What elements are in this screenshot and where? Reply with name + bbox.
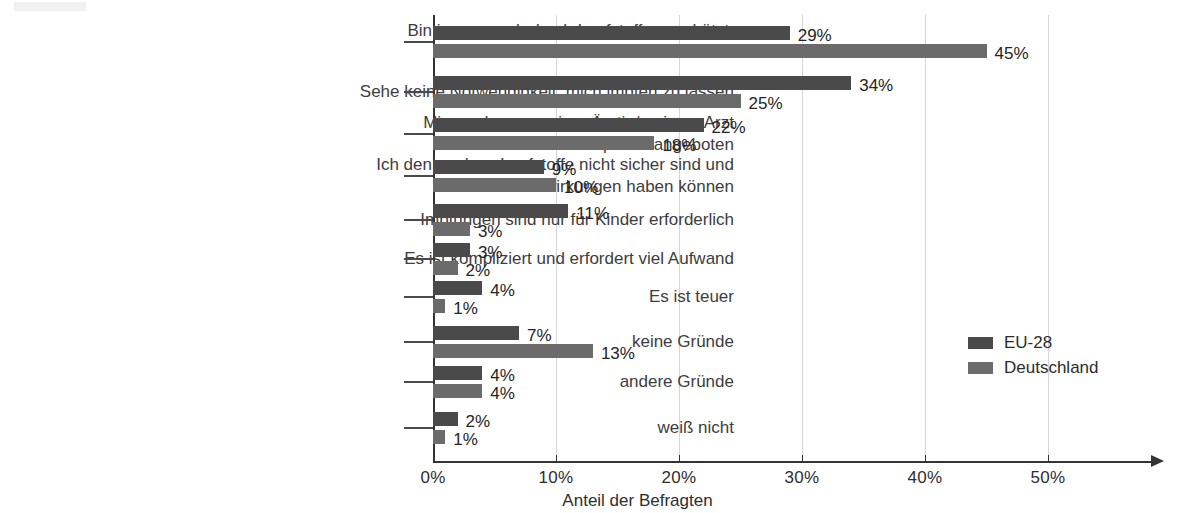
x-axis-tick-label: 10% <box>539 468 574 488</box>
legend-item[interactable]: Deutschland <box>968 355 1099 380</box>
x-axis-title: Anteil der Befragten <box>0 491 1195 511</box>
bar-value-label: 2% <box>466 262 491 279</box>
bar[interactable] <box>433 160 544 174</box>
bar-value-label: 22% <box>712 119 746 136</box>
x-axis-tick-label: 30% <box>785 468 820 488</box>
legend-item[interactable]: EU-28 <box>968 330 1099 355</box>
legend-label-deutschland: Deutschland <box>1004 358 1099 378</box>
bar[interactable] <box>433 222 470 236</box>
bar[interactable] <box>433 261 458 275</box>
bar-value-label: 11% <box>576 205 609 222</box>
category-label: keine Gründe <box>632 331 734 353</box>
bar[interactable] <box>433 430 445 444</box>
category-connector-line <box>404 258 433 260</box>
scan-artifact <box>14 2 86 11</box>
bar-value-label: 3% <box>478 244 503 261</box>
bar-value-label: 29% <box>798 27 832 44</box>
legend-label-eu28: EU-28 <box>1004 333 1052 353</box>
bar-value-label: 1% <box>453 300 478 317</box>
bar[interactable] <box>433 243 470 257</box>
category-connector-line <box>404 91 433 93</box>
bar[interactable] <box>433 281 482 295</box>
category-connector-line <box>404 41 433 43</box>
gridline <box>1048 15 1049 462</box>
bar[interactable] <box>433 412 458 426</box>
bar[interactable] <box>433 118 704 132</box>
x-axis-tick-label: 0% <box>420 468 445 488</box>
x-axis-line <box>433 461 1153 463</box>
bar[interactable] <box>433 366 482 380</box>
grouped-bar-chart: 0%10%20%30%40%50% Bin immer noch durch I… <box>0 0 1195 513</box>
category-connector-line <box>404 296 433 298</box>
bar-value-label: 3% <box>478 223 503 240</box>
bar[interactable] <box>433 178 556 192</box>
bar[interactable] <box>433 26 790 40</box>
bar-value-label: 4% <box>490 385 515 402</box>
bar-value-label: 4% <box>490 282 515 299</box>
bar-value-label: 4% <box>490 367 515 384</box>
category-label: Es ist teuer <box>649 286 734 308</box>
category-connector-line <box>404 133 433 135</box>
bar-value-label: 18% <box>662 137 696 154</box>
bar-value-label: 34% <box>859 77 893 94</box>
bar[interactable] <box>433 94 741 108</box>
bar[interactable] <box>433 204 568 218</box>
bar[interactable] <box>433 326 519 340</box>
category-connector-line <box>404 175 433 177</box>
bar[interactable] <box>433 344 593 358</box>
bar-value-label: 2% <box>466 413 491 430</box>
legend-swatch-eu28 <box>968 337 993 349</box>
x-axis-arrowhead <box>1151 455 1164 467</box>
x-axis-tick-label: 40% <box>908 468 943 488</box>
bar-value-label: 9% <box>552 161 577 178</box>
bar-value-label: 10% <box>564 179 598 196</box>
bar[interactable] <box>433 44 987 58</box>
bar[interactable] <box>433 76 851 90</box>
bar-value-label: 25% <box>749 95 783 112</box>
bar-value-label: 1% <box>453 431 478 448</box>
bar-value-label: 45% <box>995 45 1029 62</box>
category-connector-line <box>404 341 433 343</box>
category-connector-line <box>404 381 433 383</box>
category-connector-line <box>404 427 433 429</box>
category-connector-line <box>404 219 433 221</box>
bar-value-label: 13% <box>601 345 635 362</box>
category-label: weiß nicht <box>657 417 734 439</box>
category-label: andere Gründe <box>620 371 734 393</box>
bar[interactable] <box>433 384 482 398</box>
bar[interactable] <box>433 299 445 313</box>
x-axis-title-text: Anteil der Befragten <box>562 491 712 510</box>
bar-value-label: 7% <box>527 327 552 344</box>
x-axis-tick-label: 50% <box>1031 468 1066 488</box>
x-axis-tick-label: 20% <box>662 468 697 488</box>
gridline <box>925 15 926 462</box>
chart-legend: EU-28 Deutschland <box>968 330 1099 380</box>
legend-swatch-deutschland <box>968 362 993 374</box>
bar[interactable] <box>433 136 654 150</box>
